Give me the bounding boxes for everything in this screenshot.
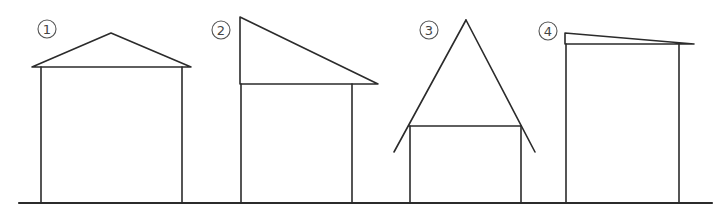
a-frame-roof-right [466,20,535,152]
label-number-4: 4 [544,24,552,39]
house-2: 2 [212,17,378,203]
label-number-1: 1 [43,22,51,37]
label-number-3: 3 [425,23,433,38]
a-frame-roof-left [394,20,466,152]
label-number-2: 2 [217,23,225,38]
steep-shed-roof [240,17,378,84]
house-roof-diagram: 1 2 3 4 [0,0,721,220]
gable-roof [32,33,191,67]
house-3: 3 [394,20,535,203]
house-4: 4 [539,22,694,203]
shallow-shed-roof [565,33,694,44]
house-1: 1 [32,20,191,203]
